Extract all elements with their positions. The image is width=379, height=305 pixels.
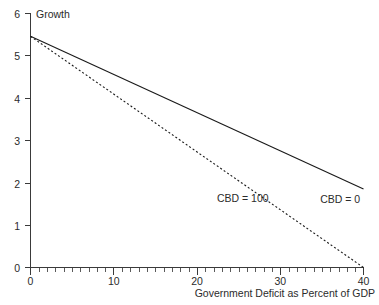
y-tick-label-2: 2 xyxy=(14,178,20,190)
x-axis-title: Government Deficit as Percent of GDP xyxy=(195,287,375,299)
y-tick-label-6: 6 xyxy=(14,8,20,20)
series-group xyxy=(31,36,364,267)
y-axis-title: Growth xyxy=(36,8,70,20)
series-annotation-cbd-0: CBD = 0 xyxy=(320,193,360,205)
y-tick-label-0: 0 xyxy=(14,262,20,274)
y-tick-label-4: 4 xyxy=(14,93,20,105)
y-axis-ticks xyxy=(25,14,30,268)
series-annotation-cbd-100: CBD = 100 xyxy=(217,192,269,204)
series-annotations: CBD = 100 CBD = 0 xyxy=(217,192,360,205)
y-tick-label-1: 1 xyxy=(14,220,20,232)
y-axis-tick-labels: 6 5 4 3 2 1 0 xyxy=(14,8,20,274)
x-tick-label-0: 0 xyxy=(28,275,34,287)
axis-group xyxy=(30,13,364,268)
x-axis-tick-labels: 0 10 20 30 40 xyxy=(28,275,370,287)
x-tick-label-20: 20 xyxy=(191,275,203,287)
x-tick-label-40: 40 xyxy=(358,275,370,287)
chart-screenshot: 6 5 4 3 2 1 0 0 10 20 30 40 Growth xyxy=(0,0,379,305)
series-line-cbd-100 xyxy=(31,36,364,267)
y-tick-label-5: 5 xyxy=(14,50,20,62)
x-tick-label-30: 30 xyxy=(274,275,286,287)
growth-vs-deficit-chart: 6 5 4 3 2 1 0 0 10 20 30 40 Growth xyxy=(0,0,379,305)
x-tick-label-10: 10 xyxy=(108,275,120,287)
y-tick-label-3: 3 xyxy=(14,135,20,147)
series-line-cbd-0 xyxy=(31,36,364,189)
